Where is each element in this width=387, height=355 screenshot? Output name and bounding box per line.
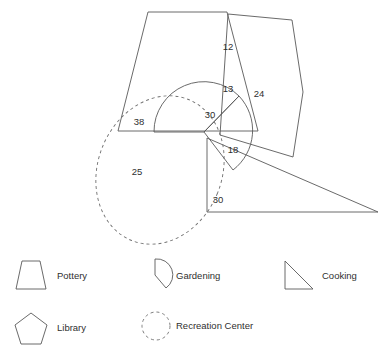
region-count-38: 38 [134,116,145,127]
dashed-circle-icon [142,312,170,340]
region-labels: 12 13 24 30 38 18 25 30 [132,41,265,205]
legend-label-recreation-center: Recreation Center [176,320,253,331]
region-count-30-gardening: 30 [205,109,216,120]
legend-item-cooking[interactable]: Cooking [285,261,357,289]
region-count-18: 18 [228,144,239,155]
legend-item-library[interactable]: Library [15,313,86,344]
trapezoid-icon [16,261,46,289]
pentagon-icon [15,313,47,344]
diagram-canvas: 12 13 24 30 38 18 25 30 Pottery Gardenin… [0,0,387,355]
set-shape-recreation-center[interactable] [74,76,246,263]
region-count-13: 13 [223,83,234,94]
legend: Pottery Gardening Cooking Library Recrea… [15,259,357,344]
region-count-30-cooking: 30 [213,194,224,205]
legend-item-pottery[interactable]: Pottery [16,261,87,289]
set-shape-pottery[interactable] [118,12,258,131]
legend-label-pottery: Pottery [57,270,87,281]
region-count-25: 25 [132,166,143,177]
legend-label-gardening: Gardening [176,270,220,281]
region-count-24: 24 [254,88,265,99]
region-count-12: 12 [223,41,234,52]
venn-diagram: 12 13 24 30 38 18 25 30 Pottery Gardenin… [0,0,387,355]
legend-label-library: Library [57,322,86,333]
right-triangle-icon [285,261,313,289]
legend-item-recreation-center[interactable]: Recreation Center [142,312,253,340]
pie-wedge-icon [155,259,173,288]
legend-item-gardening[interactable]: Gardening [155,259,220,288]
set-shape-gardening-lower[interactable] [204,96,253,170]
legend-label-cooking: Cooking [322,270,357,281]
